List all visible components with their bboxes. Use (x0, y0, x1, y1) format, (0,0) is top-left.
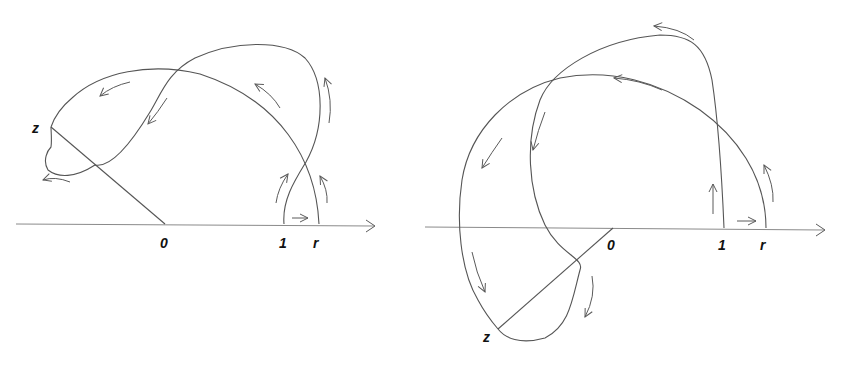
left-arrow-outer-up (325, 78, 330, 123)
right-diagram: 0 1 r z (425, 26, 825, 345)
figure-canvas: 0 1 r z 0 1 r z (0, 0, 841, 365)
left-real-axis (16, 224, 374, 226)
right-label-r: r (760, 237, 767, 253)
left-label-r: r (313, 235, 320, 251)
left-path-from-r (51, 69, 319, 224)
left-diagram: 0 1 r z (16, 45, 375, 252)
right-label-z: z (482, 329, 490, 345)
right-label-one: 1 (718, 237, 726, 253)
right-arrow-from-r (764, 165, 773, 202)
left-arrow-from-r (320, 176, 327, 203)
left-path-from-1 (45, 45, 320, 225)
right-path-from-r (459, 75, 766, 329)
right-path-from-1 (498, 35, 724, 341)
left-arrow-top-arc (100, 82, 130, 96)
right-label-origin: 0 (607, 237, 615, 253)
left-arrow-bottom-loop (43, 178, 70, 182)
left-label-origin: 0 (160, 235, 168, 251)
left-label-z: z (31, 120, 39, 136)
right-arrow-outer-down (482, 138, 502, 168)
right-arrow-top-inner (614, 78, 662, 90)
right-real-axis (425, 227, 824, 230)
right-arrow-loop-down (585, 276, 593, 317)
right-arrow-top-outer (654, 26, 694, 40)
right-arrow-left-down (472, 252, 485, 292)
left-label-one: 1 (279, 235, 287, 251)
right-radius-segment (498, 228, 613, 329)
left-arrow-from-1 (276, 174, 288, 203)
